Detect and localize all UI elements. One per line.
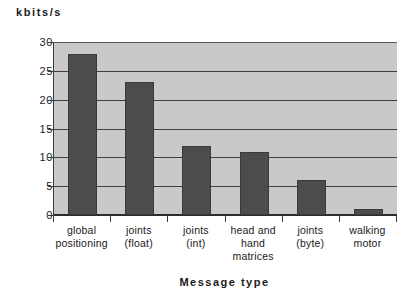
x-category-label-line: joints: [282, 224, 339, 237]
y-tick-label: 0: [9, 210, 53, 221]
gridline: [54, 157, 397, 158]
y-tick-label: 10: [9, 152, 53, 163]
x-category-label: head andhandmatrices: [225, 224, 282, 263]
bar: [68, 54, 97, 215]
x-category-label-line: (float): [110, 237, 167, 250]
y-axis: 051015202530: [0, 42, 53, 215]
x-category-label: joints(byte): [282, 224, 339, 250]
x-tick-mark: [110, 216, 111, 222]
x-tick-mark: [167, 216, 168, 222]
y-tick-label: 5: [9, 181, 53, 192]
bar: [354, 209, 383, 215]
x-axis-title: Message type: [53, 276, 396, 288]
x-category-label: globalpositioning: [53, 224, 110, 250]
plot-area: [53, 42, 397, 215]
x-tick-mark: [282, 216, 283, 222]
x-category-label-line: head and: [225, 224, 282, 237]
bar: [125, 82, 154, 215]
x-category-label-line: (int): [167, 237, 224, 250]
x-category-label-line: hand: [225, 237, 282, 250]
y-tick-label: 20: [9, 95, 53, 106]
x-category-label: walkingmotor: [339, 224, 396, 250]
x-category-label-line: global: [53, 224, 110, 237]
gridline: [54, 71, 397, 72]
x-category-label-line: matrices: [225, 250, 282, 263]
y-axis-title: kbits/s: [16, 6, 62, 18]
gridline: [54, 100, 397, 101]
x-category-label-line: (byte): [282, 237, 339, 250]
x-tick-mark: [339, 216, 340, 222]
x-category-label-line: walking: [339, 224, 396, 237]
y-tick-label: 15: [9, 124, 53, 135]
gridline-top: [54, 42, 397, 43]
x-category-label: joints(float): [110, 224, 167, 250]
bar: [297, 180, 326, 215]
x-tick-mark: [225, 216, 226, 222]
x-category-label-line: joints: [167, 224, 224, 237]
x-category-label: joints(int): [167, 224, 224, 250]
y-tick-label: 30: [9, 37, 53, 48]
bar-chart: kbits/s 051015202530 globalpositioningjo…: [0, 0, 412, 296]
gridline: [54, 186, 397, 187]
axis-baseline: [54, 214, 397, 216]
gridline: [54, 129, 397, 130]
x-category-label-line: positioning: [53, 237, 110, 250]
x-axis-labels: globalpositioningjoints(float)joints(int…: [53, 224, 396, 270]
x-category-label-line: joints: [110, 224, 167, 237]
y-tick-label: 25: [9, 66, 53, 77]
x-tick-mark: [396, 216, 397, 222]
x-tick-mark: [53, 216, 54, 222]
bar: [240, 152, 269, 215]
bar: [182, 146, 211, 215]
x-category-label-line: motor: [339, 237, 396, 250]
